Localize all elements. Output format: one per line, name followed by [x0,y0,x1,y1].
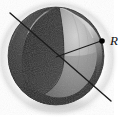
sphere-figure-svg: R [0,0,126,119]
radius-label: R [109,33,118,48]
sphere-group [8,7,104,105]
sphere-figure-container: R [0,0,126,119]
radius-endpoint-dot [99,38,105,44]
